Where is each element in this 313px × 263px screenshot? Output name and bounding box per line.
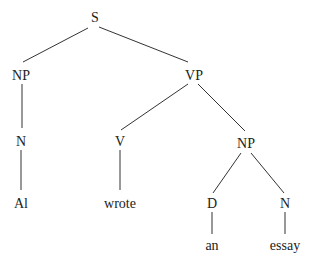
syntax-tree: SNPVPNVNPAlwroteDNanessay [0,0,313,263]
tree-node-np2: NP [237,136,255,151]
node-label: NP [237,136,255,151]
edge-vp-np2 [198,84,245,131]
tree-node-d: D [207,196,217,211]
tree-node-an: an [205,238,218,253]
edge-np2-n2 [251,153,284,193]
node-label: D [207,196,217,211]
node-label: NP [12,68,30,83]
node-label: V [115,134,125,149]
tree-node-al: Al [14,196,28,211]
node-label: wrote [104,196,136,211]
tree-node-n1: N [16,134,26,149]
node-label: N [280,196,290,211]
edge-s-np1 [23,28,88,62]
tree-node-vp: VP [185,68,203,83]
node-label: N [16,134,26,149]
tree-edges [21,27,285,234]
tree-nodes: SNPVPNVNPAlwroteDNanessay [12,10,300,253]
node-label: S [91,10,99,25]
node-label: Al [14,196,28,211]
tree-node-n2: N [280,196,290,211]
edge-s-vp [99,27,188,62]
edge-vp-v [121,84,188,130]
tree-node-np1: NP [12,68,30,83]
node-label: VP [185,68,203,83]
tree-node-s: S [91,10,99,25]
node-label: an [205,238,218,253]
tree-node-v: V [115,134,125,149]
node-label: essay [270,238,300,253]
tree-node-essay: essay [270,238,300,253]
edge-np2-d [213,153,241,193]
tree-node-wrote: wrote [104,196,136,211]
